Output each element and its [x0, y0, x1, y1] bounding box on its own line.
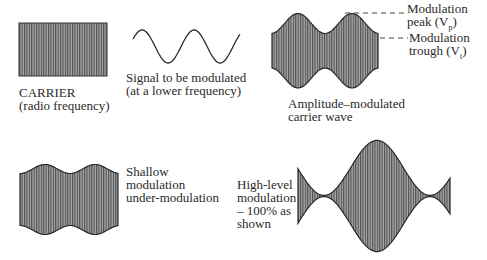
signal-label-line2: (at a lower frequency): [126, 84, 246, 97]
modulation-trough-label: Modulation trough (Vt): [409, 31, 470, 63]
modulation-peak-label: Modulation peak (Vp): [407, 2, 468, 34]
shallow-label-line3: under-modulation: [126, 191, 219, 204]
signal-label: Signal to be modulated (at a lower frequ…: [126, 71, 246, 97]
trough-label-line2: trough (Vt): [409, 44, 470, 63]
carrier-label-line2: (radio frequency): [19, 99, 110, 112]
signal-sine-wave: [133, 30, 240, 63]
high-level-modulation-label: High-level modulation – 100% as shown: [237, 178, 296, 230]
carrier-label: CARRIER (radio frequency): [19, 86, 110, 112]
high-level-label-line4: shown: [237, 217, 296, 230]
am-modulated-wave: [272, 13, 408, 88]
shallow-modulation-label: Shallow modulation under-modulation: [126, 165, 219, 204]
carrier-wave-block: [19, 23, 107, 76]
shallow-modulation-wave: [20, 165, 118, 235]
am-wave-label: Amplitude–modulated carrier wave: [288, 97, 405, 123]
am-wave-label-line2: carrier wave: [288, 110, 405, 123]
high-level-modulation-wave: [298, 140, 450, 251]
